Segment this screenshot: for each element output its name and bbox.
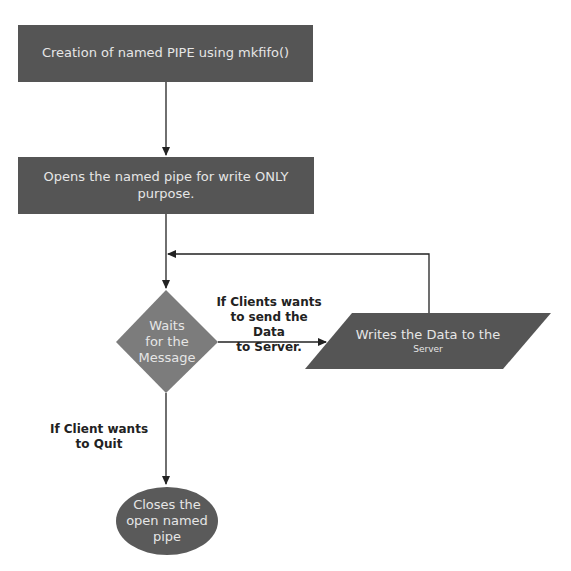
flowchart-canvas: [0, 0, 571, 571]
edge-label-send-line2: to send the Data: [214, 310, 324, 340]
edge-label-send-line1: If Clients wants: [214, 295, 324, 310]
process-open-pipe-text-line1: Opens the named pipe for write ONLY: [44, 169, 289, 185]
edge-label-send-data: If Clients wants to send the Data to Ser…: [214, 295, 324, 355]
process-create-pipe: Creation of named PIPE using mkfifo(): [18, 25, 313, 82]
edge-label-quit-line1: If Client wants: [44, 422, 154, 437]
terminal-text-line3: pipe: [153, 529, 181, 545]
process-create-pipe-text: Creation of named PIPE using mkfifo(): [42, 45, 289, 61]
terminal-text-line2: open named: [126, 513, 208, 529]
io-text-line1: Writes the Data to the: [356, 327, 500, 343]
process-open-pipe: Opens the named pipe for write ONLY purp…: [18, 157, 314, 214]
decision-wait-message: Waits for the Message: [116, 310, 218, 374]
terminal-text-line1: Closes the: [133, 497, 201, 513]
io-text-line2: Server: [413, 344, 443, 355]
decision-text-line1: Waits: [149, 318, 184, 334]
edge-label-quit: If Client wants to Quit: [44, 422, 154, 452]
process-open-pipe-text-line2: purpose.: [138, 186, 195, 202]
edge-label-quit-line2: to Quit: [44, 437, 154, 452]
decision-text-line2: for the: [145, 334, 188, 350]
io-write-data: Writes the Data to the Server: [320, 315, 536, 367]
terminal-close-pipe: Closes the open named pipe: [116, 489, 218, 553]
edge-label-send-line3: to Server.: [214, 340, 324, 355]
decision-text-line3: Message: [139, 350, 196, 366]
